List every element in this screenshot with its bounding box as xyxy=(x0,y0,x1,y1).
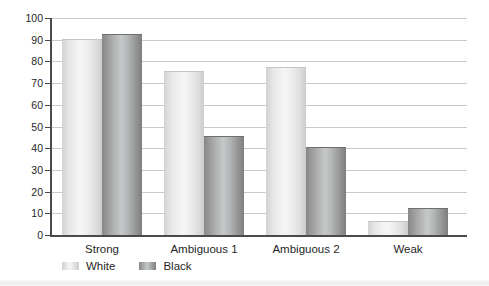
bar-white-ambiguous-1 xyxy=(164,71,204,235)
legend-item-white: White xyxy=(62,260,115,272)
y-tick-80 xyxy=(45,61,50,62)
y-tick-50 xyxy=(45,127,50,128)
y-axis-label-70: 70 xyxy=(5,78,43,88)
legend-label-black: Black xyxy=(163,260,191,272)
y-tick-90 xyxy=(45,40,50,41)
y-axis-line xyxy=(50,18,52,237)
bar-black-weak xyxy=(408,208,448,235)
legend-swatch-black xyxy=(139,262,156,270)
y-axis-label-60: 60 xyxy=(5,100,43,110)
plot-area xyxy=(52,18,467,235)
y-axis-label-40: 40 xyxy=(5,143,43,153)
y-axis-label-80: 80 xyxy=(5,56,43,66)
bar-white-strong xyxy=(62,39,102,235)
y-axis-label-30: 30 xyxy=(5,165,43,175)
y-tick-20 xyxy=(45,192,50,193)
bar-black-ambiguous-2 xyxy=(306,147,346,235)
x-axis-label-ambiguous-1: Ambiguous 1 xyxy=(149,243,259,255)
y-tick-60 xyxy=(45,105,50,106)
bar-white-ambiguous-2 xyxy=(266,67,306,235)
y-axis-label-90: 90 xyxy=(5,35,43,45)
y-tick-30 xyxy=(45,170,50,171)
y-axis-label-100: 100 xyxy=(5,13,43,23)
page-shadow-band xyxy=(0,279,489,286)
y-tick-100 xyxy=(45,18,50,19)
gridline-100 xyxy=(52,18,467,19)
bar-black-ambiguous-1 xyxy=(204,136,244,235)
y-axis-label-10: 10 xyxy=(5,208,43,218)
bar-white-weak xyxy=(368,221,408,235)
y-axis-label-0: 0 xyxy=(5,230,43,240)
y-axis-label-50: 50 xyxy=(5,122,43,132)
x-axis-label-weak: Weak xyxy=(353,243,463,255)
x-axis-line xyxy=(50,235,467,237)
legend-swatch-white xyxy=(62,262,79,270)
legend: WhiteBlack xyxy=(62,260,192,272)
y-axis-label-20: 20 xyxy=(5,187,43,197)
y-tick-70 xyxy=(45,83,50,84)
x-axis-label-ambiguous-2: Ambiguous 2 xyxy=(251,243,361,255)
y-tick-10 xyxy=(45,213,50,214)
x-axis-label-strong: Strong xyxy=(47,243,157,255)
y-tick-40 xyxy=(45,148,50,149)
bar-black-strong xyxy=(102,34,142,235)
figure-canvas: 0102030405060708090100 StrongAmbiguous 1… xyxy=(0,0,489,286)
legend-label-white: White xyxy=(86,260,115,272)
legend-item-black: Black xyxy=(139,260,191,272)
